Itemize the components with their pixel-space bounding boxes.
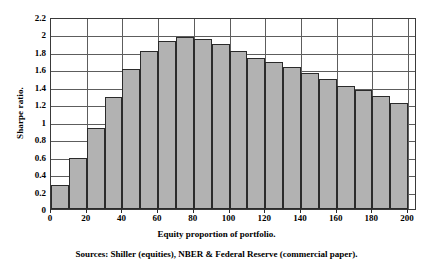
gridline-horizontal xyxy=(51,36,415,37)
bar xyxy=(69,158,87,209)
bar xyxy=(51,185,69,209)
sources-caption: Sources: Shiller (equities), NBER & Fede… xyxy=(0,249,433,259)
x-tick-label: 80 xyxy=(173,213,213,224)
y-tick-label: 0.8 xyxy=(8,136,46,145)
y-tick-label: 1.6 xyxy=(8,66,46,75)
y-tick-label: 2 xyxy=(8,31,46,40)
x-tick-label: 180 xyxy=(351,213,391,224)
x-tick-label: 200 xyxy=(387,213,427,224)
plot-area xyxy=(50,18,416,210)
bar xyxy=(390,103,408,209)
x-tick-label: 40 xyxy=(101,213,141,224)
bar xyxy=(122,69,140,209)
bar xyxy=(230,51,248,209)
x-tick-label: 160 xyxy=(316,213,356,224)
bar xyxy=(301,73,319,209)
bar xyxy=(194,39,212,209)
y-tick-label: 1.2 xyxy=(8,101,46,110)
x-tick-label: 140 xyxy=(280,213,320,224)
x-axis-tick-labels: 020406080100120140160180200 xyxy=(50,213,416,227)
x-tick-label: 100 xyxy=(209,213,249,224)
bar xyxy=(140,51,158,209)
y-tick-label: 2.2 xyxy=(8,14,46,23)
gridline-vertical xyxy=(408,19,409,209)
bar xyxy=(372,96,390,209)
bar xyxy=(355,90,373,209)
bar xyxy=(337,86,355,209)
bar xyxy=(283,67,301,209)
y-tick-label: 1.4 xyxy=(8,83,46,92)
x-tick-label: 20 xyxy=(66,213,106,224)
y-axis-tick-labels: 00.20.40.60.811.21.41.61.822.2 xyxy=(8,18,46,210)
bar xyxy=(265,62,283,209)
bar xyxy=(158,41,176,209)
y-tick-label: 0.2 xyxy=(8,188,46,197)
sharpe-ratio-bar-chart-figure: Sharpe ratio. 00.20.40.60.811.21.41.61.8… xyxy=(0,0,433,271)
bar xyxy=(176,37,194,209)
y-tick-label: 1 xyxy=(8,118,46,127)
x-tick-label: 60 xyxy=(137,213,177,224)
x-tick-label: 0 xyxy=(30,213,70,224)
bar xyxy=(87,128,105,209)
bar xyxy=(212,44,230,209)
bar xyxy=(247,58,265,209)
y-tick-label: 1.8 xyxy=(8,48,46,57)
x-axis-title: Equity proportion of portfolio. xyxy=(0,229,433,239)
bar xyxy=(319,79,337,209)
x-tick-label: 120 xyxy=(244,213,284,224)
y-tick-label: 0.6 xyxy=(8,153,46,162)
y-tick-label: 0.4 xyxy=(8,171,46,180)
bar xyxy=(105,97,123,209)
